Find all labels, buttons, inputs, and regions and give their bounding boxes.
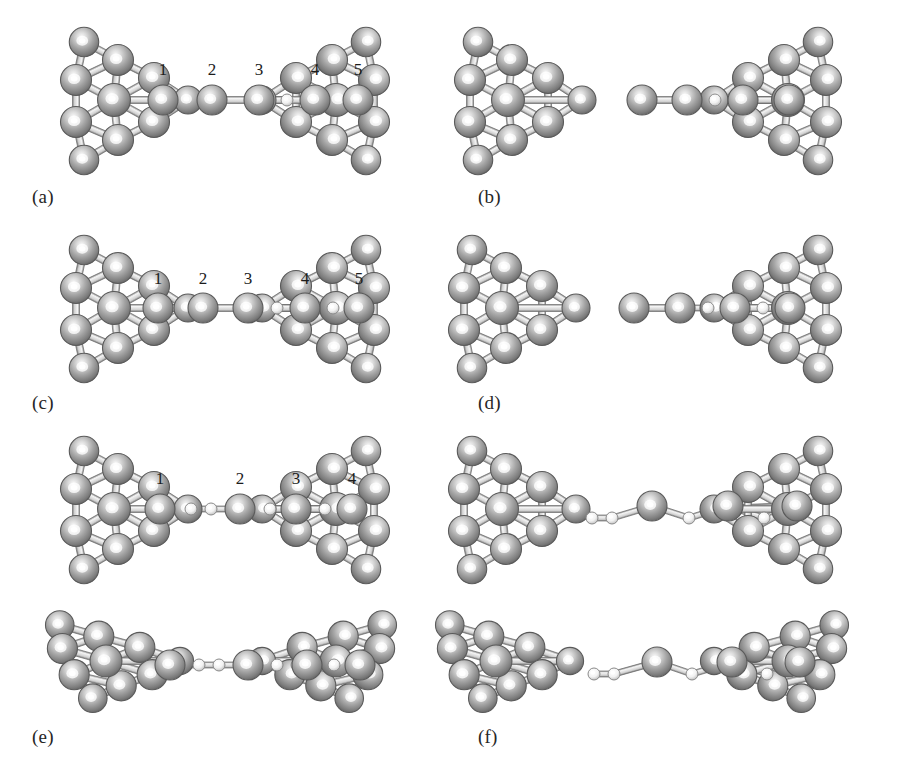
atom-specular: [537, 671, 544, 676]
atom-specular: [101, 657, 108, 663]
atom-specular: [88, 694, 94, 699]
atom-specular: [817, 565, 823, 570]
atom-specular: [507, 136, 514, 142]
atom-number-label: 2: [236, 469, 245, 488]
atom-specular: [501, 545, 508, 551]
atom-specular: [372, 76, 379, 82]
atom-specular: [753, 643, 760, 648]
atom-specular: [310, 96, 317, 101]
atom-specular: [79, 447, 85, 452]
atom-highlight: [711, 97, 716, 101]
atom-number-label: 4: [301, 269, 310, 288]
atom-specular: [243, 661, 250, 666]
atom-specular: [365, 364, 371, 369]
atom-specular: [818, 671, 825, 676]
atom-specular: [108, 96, 115, 102]
atom-specular: [372, 284, 379, 290]
atom-specular: [577, 96, 583, 101]
atom-specular: [467, 565, 473, 570]
atom-specular: [501, 344, 508, 350]
atom-specular: [348, 694, 354, 699]
atom-specular: [629, 304, 636, 309]
atom-specular: [502, 96, 509, 102]
atom-specular: [165, 661, 172, 666]
atom-highlight: [321, 506, 326, 510]
atom-specular: [465, 76, 472, 82]
atom-specular: [71, 527, 78, 533]
atom-specular: [71, 118, 78, 124]
atom-number-label: 2: [208, 60, 217, 79]
atom-specular: [365, 565, 371, 570]
atom-specular: [484, 632, 491, 637]
atom-specular: [147, 671, 154, 676]
atom-specular: [79, 565, 85, 570]
atom-specular: [465, 118, 472, 124]
atom-specular: [183, 96, 189, 101]
molecular-structure-figure: 12345123451234: [0, 0, 904, 763]
atom-specular: [746, 326, 753, 332]
atom-specular: [496, 505, 503, 511]
atom-specular: [207, 96, 214, 101]
atom-number-label: 1: [159, 60, 168, 79]
atom-specular: [784, 96, 791, 101]
atom-specular: [785, 304, 792, 309]
atom-specular: [501, 264, 508, 270]
atom-specular: [153, 304, 160, 309]
atom-specular: [782, 264, 789, 270]
atom-specular: [824, 76, 831, 82]
atom-highlight: [273, 662, 278, 666]
atom-specular: [71, 326, 78, 332]
atom-specular: [342, 632, 349, 637]
atom-specular: [507, 56, 514, 62]
atom-specular: [473, 38, 479, 43]
atom-specular: [347, 505, 354, 510]
atom-specular: [243, 304, 250, 309]
atom-specular: [501, 465, 508, 471]
atom-specular: [330, 344, 337, 350]
atom-specular: [149, 74, 156, 80]
atom-specular: [652, 658, 659, 663]
atom-specular: [198, 304, 205, 309]
atom-number-label: 4: [348, 469, 357, 488]
atom-specular: [817, 364, 823, 369]
atom-specular: [817, 447, 823, 452]
atom-specular: [378, 645, 385, 650]
atom-specular: [381, 621, 387, 626]
atom-number-label: 3: [292, 469, 301, 488]
atom-specular: [365, 38, 371, 43]
atom-specular: [235, 505, 242, 510]
atom-highlight: [588, 515, 593, 519]
atom-specular: [824, 284, 831, 290]
atom-specular: [459, 284, 466, 290]
atom-specular: [782, 56, 789, 62]
atom-specular: [365, 156, 371, 161]
atom-specular: [824, 118, 831, 124]
atom-number-label: 2: [199, 269, 208, 288]
atom-specular: [565, 657, 571, 662]
atom-specular: [637, 96, 644, 101]
atom-specular: [372, 326, 379, 332]
atom-specular: [543, 74, 550, 80]
atom-highlight: [763, 671, 768, 675]
atom-specular: [824, 527, 831, 533]
atom-specular: [727, 658, 734, 663]
atom-specular: [723, 502, 730, 507]
atom-specular: [113, 264, 120, 270]
atom-specular: [71, 485, 78, 491]
atom-specular: [833, 621, 839, 626]
atom-highlight: [330, 662, 335, 666]
atom-specular: [794, 632, 801, 637]
atom-specular: [69, 671, 76, 676]
atom-highlight: [704, 305, 709, 309]
atom-highlight: [760, 515, 765, 519]
atom-highlight: [688, 671, 693, 675]
atom-specular: [491, 657, 498, 663]
atom-specular: [79, 38, 85, 43]
atom-specular: [294, 118, 301, 124]
atom-specular: [113, 344, 120, 350]
atom-specular: [525, 643, 532, 648]
atom-specular: [294, 527, 301, 533]
atom-specular: [113, 56, 120, 62]
atom-specular: [824, 326, 831, 332]
atom-specular: [334, 96, 341, 102]
